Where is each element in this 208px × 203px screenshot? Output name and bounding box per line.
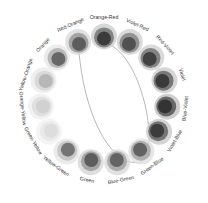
inner-shade-circle bbox=[44, 124, 58, 138]
color-wheel-diagram: Orange-RedViolet-RedRed-VioletVioletBlue… bbox=[0, 0, 208, 203]
hue-swatch-blue-green bbox=[104, 149, 130, 175]
inner-shade-circle bbox=[133, 143, 147, 157]
inner-shade-circle bbox=[158, 99, 172, 113]
hue-label: Yellow-Orange bbox=[17, 57, 33, 91]
hue-label: Violet bbox=[178, 67, 188, 82]
inner-shade-circle bbox=[61, 143, 75, 157]
inner-shade-circle bbox=[110, 153, 124, 167]
hue-swatch-violet-red bbox=[117, 29, 143, 55]
hue-label: Blue-Violet bbox=[181, 95, 190, 121]
hue-swatch-yellow-orange bbox=[31, 67, 57, 93]
inner-shade-circle bbox=[155, 74, 169, 88]
hue-label: Green bbox=[79, 175, 94, 184]
hue-swatch-red-orange bbox=[65, 29, 91, 55]
inner-shade-circle bbox=[51, 52, 65, 66]
inner-shade-circle bbox=[143, 52, 157, 66]
hue-swatch-blue-violet bbox=[154, 94, 180, 120]
hue-label: Orange-Yellow bbox=[18, 91, 28, 126]
hue-swatch-red-violet bbox=[138, 44, 164, 70]
hue-label: Blue-Green bbox=[107, 174, 134, 185]
inner-shade-circle bbox=[36, 99, 50, 113]
hue-swatch-green bbox=[78, 149, 104, 175]
inner-shade-circle bbox=[150, 124, 164, 138]
hue-swatch-orange-yellow bbox=[28, 94, 54, 120]
inner-shade-circle bbox=[72, 37, 86, 51]
hue-swatch-ring bbox=[28, 23, 181, 175]
hue-swatch-orange bbox=[44, 44, 70, 70]
hue-swatch-violet bbox=[151, 67, 177, 93]
inner-shade-circle bbox=[97, 32, 111, 46]
inner-shade-circle bbox=[84, 153, 98, 167]
hue-swatch-green-blue bbox=[128, 138, 154, 164]
inner-shade-circle bbox=[39, 74, 53, 88]
hue-label: Orange-Red bbox=[90, 14, 119, 20]
hue-swatch-yellow-green bbox=[54, 138, 80, 164]
hue-swatch-violet-blue bbox=[146, 119, 172, 145]
hue-swatch-orange-red bbox=[91, 23, 117, 49]
inner-shade-circle bbox=[122, 37, 136, 51]
hue-swatch-green-yellow bbox=[36, 119, 62, 145]
